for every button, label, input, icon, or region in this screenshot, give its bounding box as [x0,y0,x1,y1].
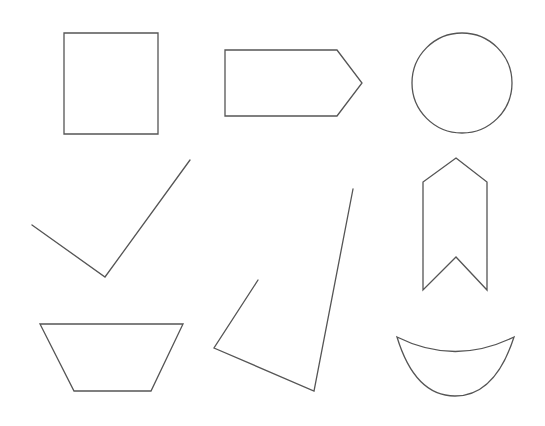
square-shape [64,33,158,134]
open-quadrilateral-shape [214,189,353,391]
shapes-svg [0,0,545,426]
crescent-bowl-shape [397,337,514,396]
pentagon-arrow-shape [225,50,362,116]
checkmark-shape [32,160,190,277]
trapezoid-shape [40,324,183,391]
shapes-canvas [0,0,545,426]
bookmark-chevron-shape [423,158,487,290]
circle-shape [412,33,512,133]
